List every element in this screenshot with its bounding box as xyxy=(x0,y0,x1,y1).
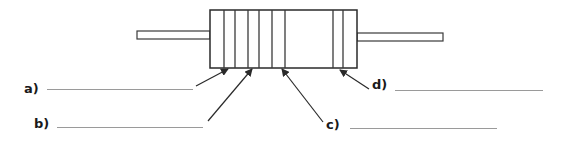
label-d: d) xyxy=(372,78,387,91)
pointer-arrows xyxy=(196,69,369,122)
resistor-lead-left xyxy=(137,31,210,39)
label-c: c) xyxy=(326,118,340,131)
answer-line-c[interactable] xyxy=(350,128,497,129)
resistor-lead-right xyxy=(357,33,443,41)
arrow-a xyxy=(196,69,228,86)
arrow-b xyxy=(208,69,252,121)
arrow-c xyxy=(282,69,323,122)
resistor-body xyxy=(210,10,357,68)
label-a: a) xyxy=(24,82,39,95)
arrow-d xyxy=(340,70,369,89)
label-b: b) xyxy=(34,117,49,130)
answer-line-b[interactable] xyxy=(57,127,203,128)
answer-line-d[interactable] xyxy=(395,90,543,91)
resistor-diagram xyxy=(0,0,564,141)
answer-line-a[interactable] xyxy=(47,89,193,90)
